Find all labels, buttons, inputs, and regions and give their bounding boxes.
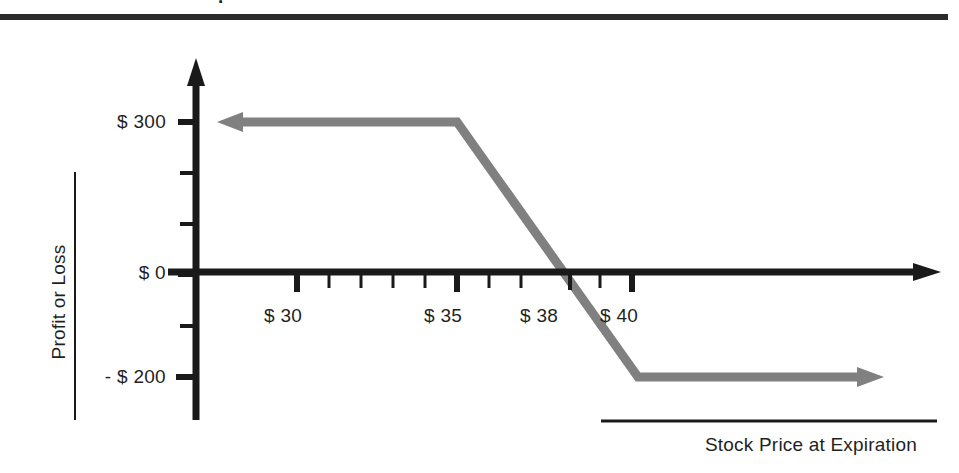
x-axis [168, 263, 941, 292]
payoff-right-arrow-icon [857, 367, 884, 387]
payoff-line-series [217, 112, 884, 387]
y-tick-label-minus200: - $ 200 [26, 366, 166, 388]
x-axis-title: Stock Price at Expiration [705, 434, 917, 456]
payoff-diagram [0, 0, 959, 473]
payoff-line-path [232, 122, 870, 377]
y-axis-arrow-up-icon [187, 58, 205, 86]
x-tick-label-35: $ 35 [424, 305, 462, 327]
y-axis [176, 58, 205, 420]
x-tick-label-40: $ 40 [600, 305, 638, 327]
y-tick-label-300: $ 300 [36, 111, 166, 133]
x-axis-arrow-right-icon [913, 263, 941, 281]
x-tick-label-30: $ 30 [264, 305, 302, 327]
x-tick-label-38: $ 38 [520, 305, 558, 327]
chart-page: . [0, 0, 959, 473]
y-axis-title: Profit or Loss [48, 222, 70, 382]
payoff-left-arrow-icon [217, 112, 243, 132]
